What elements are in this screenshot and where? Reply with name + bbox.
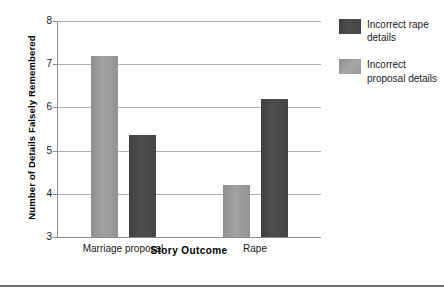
legend-entry-1: Incorrect proposal details xyxy=(339,58,439,84)
y-axis-title: Number of Details Falsely Remembered xyxy=(26,18,37,238)
legend-swatch-0 xyxy=(339,19,361,34)
y-tick-label-8: 8 xyxy=(46,16,52,26)
y-tick-mark-7 xyxy=(53,64,57,65)
legend-label-1: Incorrect proposal details xyxy=(367,58,439,84)
legend-entry-0: Incorrect rape details xyxy=(339,18,439,44)
y-tick-label-6: 6 xyxy=(46,102,52,112)
y-tick-mark-4 xyxy=(53,194,57,195)
figure-bottom-rule xyxy=(0,285,444,287)
y-tick-mark-3 xyxy=(53,237,57,238)
bar-chart-figure: Number of Details Falsely Remembered 345… xyxy=(0,0,444,301)
y-tick-label-5: 5 xyxy=(46,146,52,156)
plot-area: 345678 Marriage proposalRape xyxy=(57,21,321,238)
x-axis-line xyxy=(57,237,321,238)
gridline-8 xyxy=(57,21,321,22)
bar-marriage-proposal-incorrect-proposal-details xyxy=(91,56,118,237)
legend-label-0: Incorrect rape details xyxy=(367,18,439,44)
y-axis-line xyxy=(57,21,58,238)
bar-rape-incorrect-proposal-details xyxy=(223,185,250,237)
legend-swatch-1 xyxy=(339,59,361,74)
y-tick-mark-6 xyxy=(53,107,57,108)
chart-legend: Incorrect rape detailsIncorrect proposal… xyxy=(339,18,439,99)
y-tick-label-3: 3 xyxy=(46,232,52,242)
y-tick-label-7: 7 xyxy=(46,59,52,69)
y-tick-label-4: 4 xyxy=(46,189,52,199)
x-axis-title: Story Outcome xyxy=(57,245,321,256)
y-tick-mark-5 xyxy=(53,151,57,152)
bar-marriage-proposal-incorrect-rape-details xyxy=(129,135,156,237)
y-tick-mark-8 xyxy=(53,21,57,22)
bar-rape-incorrect-rape-details xyxy=(261,99,288,237)
